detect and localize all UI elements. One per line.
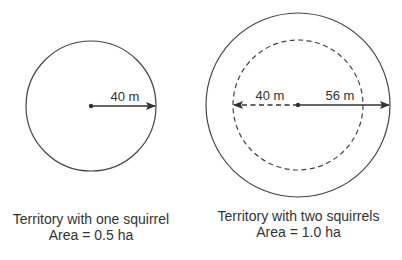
territory-two: 40 m 56 m [206, 13, 390, 197]
territory-one-radius-label: 40 m [111, 89, 140, 104]
territory-two-caption: Territory with two squirrels Area = 1.0 … [205, 208, 392, 240]
territory-two-inner-radius-label: 40 m [256, 88, 285, 103]
territory-two-outer-radius-label: 56 m [326, 88, 355, 103]
territory-one: 40 m [26, 41, 156, 171]
territory-one-caption: Territory with one squirrel Area = 0.5 h… [0, 211, 182, 243]
territory-two-caption-title: Territory with two squirrels [205, 208, 392, 224]
territory-one-caption-title: Territory with one squirrel [0, 211, 182, 227]
territory-one-caption-area: Area = 0.5 ha [0, 227, 182, 243]
territory-two-caption-area: Area = 1.0 ha [205, 224, 392, 240]
